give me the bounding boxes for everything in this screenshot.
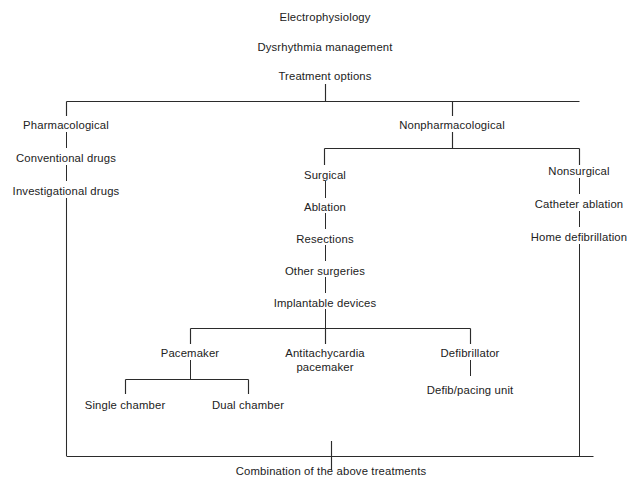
node-defib-pacing-unit: Defib/pacing unit (427, 384, 514, 396)
node-antitachycardia-pacemaker-line2: pacemaker (296, 361, 353, 373)
node-nonsurgical: Nonsurgical (548, 165, 609, 177)
node-antitachycardia-pacemaker-line1: Antitachycardia (285, 347, 365, 359)
node-resections: Resections (296, 233, 354, 245)
node-home-defibrillation: Home defibrillation (531, 231, 627, 243)
node-combination-of-the-above-treatments: Combination of the above treatments (236, 465, 427, 477)
node-implantable-devices: Implantable devices (274, 297, 377, 309)
node-single-chamber: Single chamber (85, 399, 166, 411)
node-other-surgeries: Other surgeries (285, 265, 365, 277)
node-catheter-ablation: Catheter ablation (535, 198, 624, 210)
node-conventional-drugs: Conventional drugs (16, 152, 116, 164)
node-dysrhythmia-management: Dysrhythmia management (257, 41, 393, 53)
edge-level1-split (67, 102, 580, 117)
node-electrophysiology: Electrophysiology (279, 11, 370, 23)
node-surgical: Surgical (304, 169, 346, 181)
edge-nonpharmacological-split (325, 132, 580, 165)
flowchart-canvas: Electrophysiology Dysrhythmia management… (0, 0, 642, 488)
node-investigational-drugs: Investigational drugs (13, 185, 120, 197)
node-treatment-options: Treatment options (278, 70, 371, 82)
edge-pacemaker-split (126, 360, 249, 394)
flowchart-svg: Electrophysiology Dysrhythmia management… (0, 0, 642, 488)
node-nonpharmacological: Nonpharmacological (399, 119, 505, 131)
node-dual-chamber: Dual chamber (212, 399, 284, 411)
node-defibrillator: Defibrillator (440, 347, 499, 359)
node-pharmacological: Pharmacological (23, 119, 109, 131)
edge-implantable-split (191, 329, 471, 345)
node-pacemaker: Pacemaker (161, 347, 220, 359)
node-ablation: Ablation (304, 201, 346, 213)
